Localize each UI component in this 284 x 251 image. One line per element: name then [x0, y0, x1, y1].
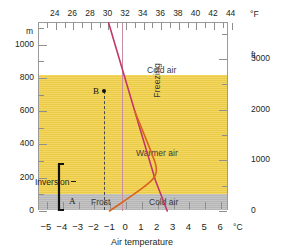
bottom-axis-tick-label: 6	[217, 222, 222, 232]
top-axis-tick-label: 36	[156, 9, 165, 18]
top-axis-tick-label: 34	[138, 9, 147, 18]
bottom-axis-tick-label: 1	[138, 222, 143, 232]
bottom-axis-tick-label: −2	[88, 222, 99, 232]
left-axis-tick-label: 0	[2, 206, 34, 215]
bottom-axis-tick-label: 0	[122, 222, 127, 232]
left-axis-tick-label: 1000	[2, 39, 34, 48]
top-axis-tick-label: 26	[68, 9, 77, 18]
right-axis-tick-label: 2000	[251, 104, 270, 113]
chart-figure: 2426283032343638404244 °F Freezing Cold …	[0, 0, 284, 251]
left-axis-tick-label: 800	[2, 73, 34, 82]
top-axis-tick-label: 40	[191, 9, 200, 18]
bottom-axis-tick-label: 2	[154, 222, 159, 232]
left-axis-tick-label: 400	[2, 139, 34, 148]
left-axis-tick-label: 600	[2, 106, 34, 115]
x-axis-title: Air temperature	[111, 237, 173, 247]
top-axis-tick-label: 44	[226, 9, 235, 18]
top-axis-tick-label: 42	[208, 9, 217, 18]
bottom-axis-tick-label: −3	[72, 222, 83, 232]
top-axis-tick-label: 32	[120, 9, 129, 18]
right-axis-unit-label: ft	[251, 50, 256, 60]
bottom-axis-tick-label: 5	[202, 222, 207, 232]
top-axis-tick-label: 30	[103, 9, 112, 18]
right-axis-tick-label: 1000	[251, 155, 270, 164]
top-axis-tick-label: 38	[173, 9, 182, 18]
inversion-label: Inversion	[35, 177, 70, 187]
bottom-axis-unit-label: °C	[233, 222, 243, 232]
top-axis-unit-label: °F	[250, 9, 259, 19]
left-axis-tick	[39, 211, 47, 212]
bottom-axis-tick-label: −4	[56, 222, 67, 232]
top-axis-tick-label: 28	[85, 9, 94, 18]
inversion-leader-dash	[71, 181, 76, 182]
left-axis-tick-label: 200	[2, 172, 34, 181]
bottom-axis-tick-label: 4	[186, 222, 191, 232]
bottom-axis-tick-label: −5	[40, 222, 51, 232]
right-axis-tick-label: 0	[251, 206, 256, 215]
left-axis-unit-label: m	[26, 26, 33, 36]
bottom-axis-tick-label: 3	[170, 222, 175, 232]
bottom-axis-tick-label: −1	[104, 222, 115, 232]
top-axis-tick-label: 24	[50, 9, 59, 18]
right-axis-tick	[219, 211, 227, 212]
top-axis-tick	[232, 23, 233, 30]
